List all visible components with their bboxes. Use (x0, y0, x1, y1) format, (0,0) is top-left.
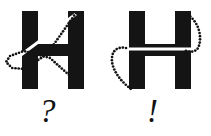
path-dot (111, 59, 114, 62)
path-dot (11, 67, 14, 70)
path-dot (73, 14, 76, 17)
path-dot (112, 65, 115, 68)
path-dot (60, 33, 63, 36)
path-dot (58, 35, 61, 38)
path-dot (111, 62, 114, 65)
path-dot (6, 62, 9, 65)
path-dot (63, 69, 66, 72)
path-dot (191, 50, 194, 53)
path-dot (51, 46, 54, 49)
path-dot (24, 50, 27, 53)
path-dot (5, 60, 8, 63)
path-dot (68, 74, 71, 77)
right-panel-exclamation-mark-label: ! (147, 95, 158, 128)
path-dot (196, 47, 199, 50)
path-dot (111, 56, 114, 59)
path-dot (121, 46, 124, 49)
path-dot (54, 40, 57, 43)
path-dot (39, 54, 42, 57)
path-dot (53, 61, 56, 64)
path-dot (116, 74, 119, 77)
path-dot (189, 15, 192, 18)
path-dot (114, 71, 117, 74)
path-dot (64, 27, 67, 30)
path-dot (29, 64, 32, 67)
path-dot (198, 41, 201, 44)
path-dot (30, 52, 33, 55)
path-dot (188, 50, 191, 53)
path-dot (24, 68, 27, 71)
path-dot (199, 38, 202, 41)
path-dot (52, 43, 55, 46)
path-dot (45, 53, 48, 56)
path-dot (129, 87, 132, 90)
path-dot (60, 67, 63, 70)
path-dot (42, 55, 45, 58)
path-dot (26, 66, 29, 69)
path-dot (67, 22, 70, 25)
path-dot (65, 25, 68, 28)
path-dot (193, 20, 196, 23)
path-dot (9, 55, 12, 58)
path-dot (185, 49, 188, 52)
path-dot (62, 30, 65, 33)
path-dot (7, 57, 10, 60)
path-dot (118, 47, 121, 50)
path-dot (45, 56, 48, 59)
path-dot (122, 81, 125, 84)
path-dot (118, 76, 121, 79)
path-dot (69, 19, 72, 22)
path-dot (37, 59, 40, 62)
path-dot (27, 51, 30, 54)
path-dot (72, 78, 75, 81)
path-dot (127, 85, 130, 88)
path-dot (194, 49, 197, 52)
path-dot (17, 67, 20, 70)
path-dot (9, 65, 12, 68)
path-dot (48, 57, 51, 60)
left-panel-question-mark-label: ? (39, 95, 56, 128)
path-dot (12, 54, 15, 57)
path-dot (195, 23, 198, 26)
path-dot (56, 63, 59, 66)
path-dot (15, 52, 18, 55)
path-dot (191, 17, 194, 20)
path-dot (75, 12, 78, 15)
path-dot (184, 12, 187, 15)
path-dot (34, 60, 37, 63)
path-dot (51, 59, 54, 62)
path-dot (21, 50, 24, 53)
path-dot (111, 53, 114, 56)
path-dot (113, 68, 116, 71)
path-dot (71, 17, 74, 20)
figure-canvas (0, 0, 211, 136)
path-dot (49, 48, 52, 51)
path-dot (65, 71, 68, 74)
path-dot (21, 67, 24, 70)
path-dot (196, 26, 199, 29)
path-dot (113, 50, 116, 53)
path-dot (199, 35, 202, 38)
path-dot (33, 52, 36, 55)
path-dot (18, 51, 21, 54)
path-dot (32, 62, 35, 65)
path-dot (47, 51, 50, 54)
path-dot (120, 79, 123, 82)
path-dot (36, 53, 39, 56)
path-dot (14, 67, 17, 70)
path-dot (115, 48, 118, 51)
path-dot (198, 44, 201, 47)
path-dot (186, 13, 189, 16)
path-dot (198, 32, 201, 35)
path-dot (40, 57, 43, 60)
path-dot (75, 80, 78, 83)
path-dot (124, 83, 127, 86)
path-dot (70, 76, 73, 79)
figure-root: ? ! (0, 0, 211, 136)
path-dot (58, 65, 61, 68)
path-dot (125, 47, 128, 50)
path-dot (56, 38, 59, 41)
path-dot (197, 29, 200, 32)
